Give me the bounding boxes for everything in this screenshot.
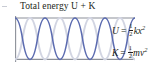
corner-tick-mark (2, 6, 7, 7)
potential-equals-sign: = (121, 26, 126, 36)
kinetic-energy-symbol: K (112, 48, 118, 58)
potential-fraction-denominator: 2 (129, 31, 133, 38)
kinetic-fraction-denominator: 2 (128, 53, 132, 60)
page-title: Total energy U + K (20, 1, 95, 11)
mass-symbol: m (133, 48, 140, 58)
potential-one-half-fraction: 12 (129, 23, 133, 37)
potential-energy-symbol: U (112, 26, 119, 36)
kinetic-exponent: 2 (144, 46, 147, 53)
potential-exponent: 2 (142, 24, 145, 31)
potential-energy-equation: U=12kx2 (112, 23, 145, 37)
kinetic-energy-equation: K=12mv2 (112, 45, 147, 59)
kinetic-equals-sign: = (120, 48, 125, 58)
kinetic-one-half-fraction: 12 (128, 45, 132, 59)
energy-figure: Total energy U + K U=12kx2 K=12mv2 (0, 0, 165, 74)
